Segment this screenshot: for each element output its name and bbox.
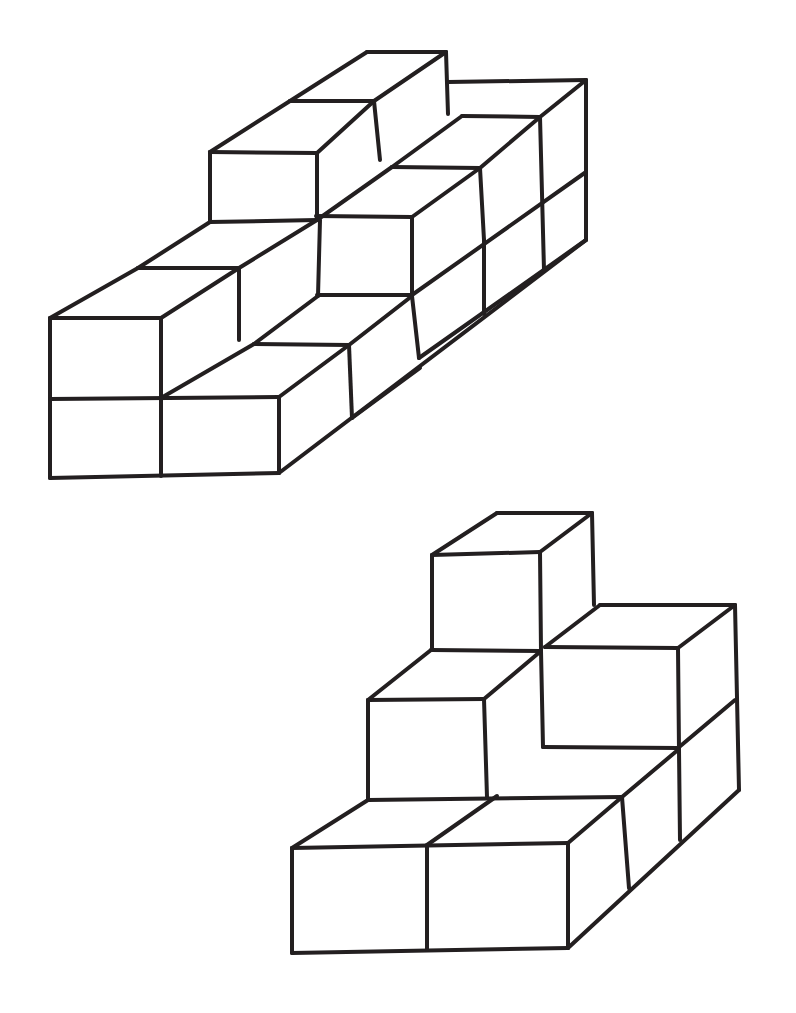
cube-edge <box>412 168 480 217</box>
cube-edge <box>290 52 367 101</box>
cube-edge <box>368 650 431 700</box>
cube-edge <box>427 796 497 845</box>
cube-edge <box>392 116 462 167</box>
cube-edge <box>541 651 543 747</box>
cube-edge <box>318 220 320 296</box>
cube-edge <box>50 268 138 318</box>
cube-edge <box>138 222 210 268</box>
cube-edge <box>412 296 419 358</box>
cube-edge <box>540 552 541 651</box>
cube-edge <box>368 699 484 700</box>
cube-edge <box>568 797 622 843</box>
cube-edge <box>432 513 497 555</box>
cube-edge <box>374 101 380 160</box>
cube-edge <box>540 513 592 552</box>
cube-edge <box>316 216 412 217</box>
cube-edge <box>480 117 540 168</box>
cube-edge <box>50 473 279 478</box>
cube-edge <box>484 651 541 699</box>
cube-edge <box>317 167 392 220</box>
cube-edge <box>592 513 594 605</box>
cube-edge <box>210 220 317 222</box>
cube-edge <box>419 240 586 358</box>
cube-edge <box>679 750 680 840</box>
cube-edge <box>161 344 254 398</box>
cube-edge <box>392 167 480 168</box>
cube-edge <box>210 101 290 152</box>
cube-structure-1 <box>50 52 586 478</box>
cube-edge <box>352 368 420 418</box>
cube-edge <box>545 647 678 648</box>
cube-edge <box>368 797 622 800</box>
cube-edge <box>540 80 586 117</box>
cube-edge <box>431 650 541 651</box>
cube-edge <box>735 605 739 790</box>
cube-edge <box>279 345 349 397</box>
cube-edge <box>622 797 629 888</box>
cube-edge <box>432 552 540 555</box>
cube-edge <box>543 747 678 748</box>
cube-structure-2 <box>292 513 739 953</box>
cube-diagram <box>0 0 796 1013</box>
cube-edge <box>292 800 368 848</box>
cube-edge <box>540 117 544 270</box>
cube-edge <box>622 749 679 797</box>
cube-edge <box>292 948 568 953</box>
cube-edge <box>480 168 484 240</box>
cube-edge <box>568 790 739 948</box>
cube-edge <box>254 296 318 344</box>
cube-edge <box>317 101 374 153</box>
cube-edge <box>448 80 586 82</box>
cube-edge <box>374 52 446 101</box>
cube-edge <box>349 296 412 345</box>
cube-edge <box>349 345 352 418</box>
cube-edge <box>678 700 735 748</box>
cube-edge <box>412 172 586 295</box>
cube-edge <box>545 605 600 647</box>
diagram-canvas <box>0 0 796 1013</box>
cube-edge <box>161 268 239 318</box>
cube-edge <box>678 605 735 648</box>
cube-edge <box>254 344 349 345</box>
cube-edge <box>462 116 540 117</box>
cube-edge <box>484 699 487 797</box>
cube-edge <box>210 152 317 153</box>
cube-edge <box>239 220 317 268</box>
cube-edge <box>678 648 679 750</box>
